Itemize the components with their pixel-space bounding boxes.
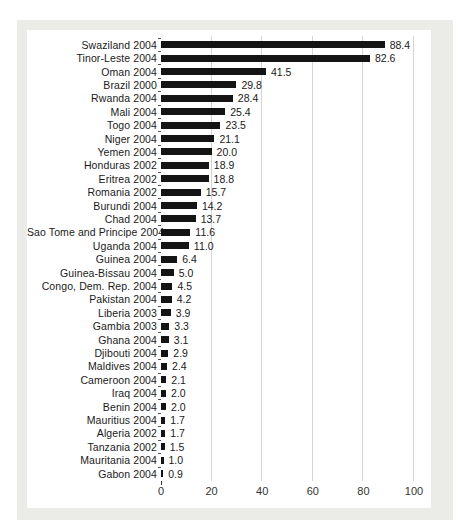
y-axis-tick [158, 426, 161, 427]
bar-track: 0.9 [161, 467, 414, 480]
bar [161, 135, 214, 142]
bar-chart: Swaziland 200488.4Tinor-Leste 200482.6Om… [27, 30, 431, 508]
value-label: 2.0 [171, 401, 186, 413]
value-label: 18.9 [214, 159, 234, 171]
bar-row: Niger 200421.1 [27, 132, 431, 145]
y-axis-tick [158, 239, 161, 240]
bar-track: 88.4 [161, 38, 414, 51]
bar-track: 21.1 [161, 132, 414, 145]
bar-track: 15.7 [161, 185, 414, 198]
bar [161, 108, 225, 115]
bar [161, 390, 166, 397]
bar-track: 1.0 [161, 454, 414, 467]
bar-row: Brazil 200029.8 [27, 78, 431, 91]
y-axis-tick [158, 399, 161, 400]
bar-track: 3.9 [161, 306, 414, 319]
bar-row: Sao Tome and Principe 200411.6 [27, 226, 431, 239]
bar [161, 95, 233, 102]
bar-row: Pakistan 20044.2 [27, 293, 431, 306]
value-label: 14.2 [202, 200, 222, 212]
y-axis-tick [158, 105, 161, 106]
value-label: 41.5 [271, 66, 291, 78]
bar [161, 403, 166, 410]
value-label: 15.7 [206, 186, 226, 198]
y-axis-tick [158, 158, 161, 159]
bar-row: Cameroon 20042.1 [27, 373, 431, 386]
value-label: 3.9 [176, 307, 191, 319]
bar-row: Chad 200413.7 [27, 212, 431, 225]
y-axis-tick [158, 198, 161, 199]
category-label: Brazil 2000 [27, 79, 157, 91]
bar-row: Iraq 20042.0 [27, 387, 431, 400]
bar-row: Tinor-Leste 200482.6 [27, 51, 431, 64]
bar [161, 256, 177, 263]
bar [161, 81, 236, 88]
y-axis-tick [158, 212, 161, 213]
y-axis-tick [158, 265, 161, 266]
y-axis-tick [158, 453, 161, 454]
value-label: 2.1 [171, 374, 186, 386]
bar-row: Benin 20042.0 [27, 400, 431, 413]
bar-track: 2.4 [161, 360, 414, 373]
bar-row: Burundi 200414.2 [27, 199, 431, 212]
category-label: Mauritania 2004 [27, 454, 157, 466]
y-axis-tick [158, 38, 161, 39]
y-axis-tick [158, 145, 161, 146]
bar [161, 350, 168, 357]
category-label: Uganda 2004 [27, 240, 157, 252]
bar-track: 3.1 [161, 333, 414, 346]
y-axis-tick [158, 185, 161, 186]
value-label: 1.7 [170, 414, 185, 426]
bar-row: Gambia 20033.3 [27, 320, 431, 333]
y-axis-tick [158, 131, 161, 132]
bar-row: Djibouti 20042.9 [27, 346, 431, 359]
value-label: 4.2 [177, 293, 192, 305]
bar-row: Ghana 20043.1 [27, 333, 431, 346]
x-tick-label-100: 100 [405, 485, 423, 497]
y-axis-tick [158, 386, 161, 387]
bar-track: 25.4 [161, 105, 414, 118]
x-tick-label-60: 60 [307, 485, 319, 497]
bar-row: Liberia 20033.9 [27, 306, 431, 319]
category-label: Gabon 2004 [27, 468, 157, 480]
bar-row: Eritrea 200218.8 [27, 172, 431, 185]
bar-track: 4.2 [161, 293, 414, 306]
bar [161, 68, 266, 75]
category-label: Oman 2004 [27, 66, 157, 78]
bar-row: Algeria 20021.7 [27, 427, 431, 440]
category-label: Guinea-Bissau 2004 [27, 267, 157, 279]
category-label: Pakistan 2004 [27, 293, 157, 305]
bar [161, 215, 196, 222]
bar-track: 6.4 [161, 253, 414, 266]
category-label: Romania 2002 [27, 186, 157, 198]
bar-track: 1.7 [161, 427, 414, 440]
category-label: Mali 2004 [27, 106, 157, 118]
bar [161, 336, 169, 343]
bar-row: Mali 200425.4 [27, 105, 431, 118]
category-label: Togo 2004 [27, 119, 157, 131]
bar-row: Congo, Dem. Rep. 20044.5 [27, 279, 431, 292]
bar [161, 242, 189, 249]
bar [161, 363, 167, 370]
y-axis-tick [158, 306, 161, 307]
x-axis: 020406080100 [161, 485, 414, 499]
bar-row: Guinea 20046.4 [27, 253, 431, 266]
value-label: 29.8 [241, 79, 261, 91]
value-label: 1.7 [170, 427, 185, 439]
bar-track: 20.0 [161, 145, 414, 158]
category-label: Djibouti 2004 [27, 347, 157, 359]
bar-track: 28.4 [161, 92, 414, 105]
bar [161, 309, 171, 316]
bar [161, 323, 169, 330]
bar [161, 162, 209, 169]
bar [161, 41, 385, 48]
category-label: Benin 2004 [27, 401, 157, 413]
y-axis-tick [158, 118, 161, 119]
bar-row: Togo 200423.5 [27, 118, 431, 131]
value-label: 3.3 [174, 320, 189, 332]
category-label: Liberia 2003 [27, 307, 157, 319]
y-axis-tick [158, 252, 161, 253]
value-label: 4.5 [177, 280, 192, 292]
y-axis-tick [158, 346, 161, 347]
bar-track: 2.1 [161, 373, 414, 386]
